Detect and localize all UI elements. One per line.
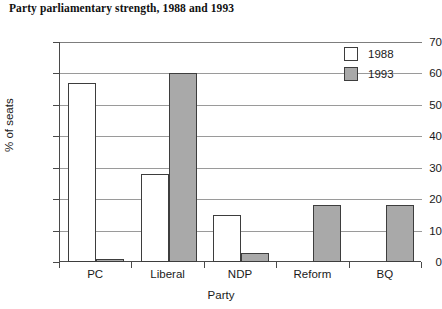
bar-pc-1993 [96,259,124,262]
x-tick-mark [276,262,277,268]
bar-bq-1993 [386,205,414,262]
bar-liberal-1993 [169,73,197,262]
x-tick-mark [349,262,350,268]
bar-ndp-1993 [241,253,269,262]
legend-swatch-1988 [344,47,358,61]
gridline [60,136,422,137]
x-tick-label-liberal: Liberal [150,268,185,280]
gridline [60,42,422,43]
x-tick-mark [131,262,132,268]
y-axis-title: % of seats [3,98,15,152]
legend-label-1993: 1993 [368,67,394,81]
x-tick-label-reform: Reform [294,268,332,280]
legend-label-1988: 1988 [368,47,394,61]
x-tick-mark [59,262,60,268]
legend-swatch-1993 [344,67,358,81]
x-tick-label-bq: BQ [376,268,393,280]
bar-reform-1993 [313,205,341,262]
chart-container: Party parliamentary strength, 1988 and 1… [0,0,442,309]
gridline [60,199,422,200]
plot-area [59,42,421,262]
gridline [60,168,422,169]
gridline [60,231,422,232]
x-tick-label-ndp: NDP [228,268,252,280]
gridline [60,105,422,106]
bar-ndp-1988 [213,215,241,262]
x-axis-title: Party [0,289,442,301]
bar-pc-1988 [68,83,96,262]
bar-liberal-1988 [141,174,169,262]
x-tick-mark [204,262,205,268]
x-tick-mark [421,262,422,268]
x-tick-label-pc: PC [87,268,103,280]
chart-title: Party parliamentary strength, 1988 and 1… [9,2,234,14]
